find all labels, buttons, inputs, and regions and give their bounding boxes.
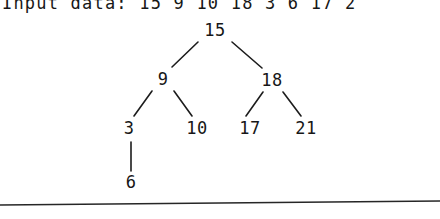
bottom-separator-rule xyxy=(0,0,440,219)
bst-output-page: Input data: 15 9 10 18 3 6 17 2 15918310… xyxy=(0,0,440,219)
separator-line xyxy=(0,201,440,205)
